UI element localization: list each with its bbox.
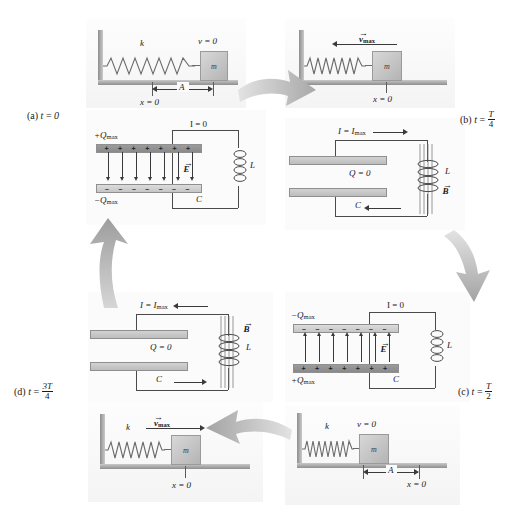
current-label-d: I = Imax <box>140 300 168 310</box>
amplitude-label-a: A <box>179 82 185 92</box>
origin-label-b: x = 0 <box>373 94 392 104</box>
flow-arrow-b-to-c <box>440 228 510 308</box>
capacitor-bottom-plate-c: +++++++ <box>293 364 399 373</box>
top-plate-charges-a: +++++++ <box>97 145 201 152</box>
flow-arrow-a-to-b <box>236 58 328 130</box>
wire-bottom-d <box>136 390 228 391</box>
inductor-coil-c <box>428 328 444 366</box>
origin-tick-c <box>419 465 420 479</box>
inductor-label-d: L <box>246 342 251 352</box>
time-fraction-c: T 2 <box>485 382 492 402</box>
wire-bottom-c <box>369 388 435 389</box>
bottom-charge-label-a: −Qmax <box>94 195 118 205</box>
current-arrow-line-bottom-d <box>174 382 204 383</box>
mass-label-a: m <box>211 62 217 71</box>
wire-bottom-a <box>172 208 238 209</box>
spring-coil-d <box>105 440 165 460</box>
flow-arrow-c-to-d <box>196 396 296 452</box>
capacitor-label-c: C <box>393 374 399 384</box>
capacitor-top-plate-b <box>289 156 387 165</box>
panel-label-b: (b) t = T 4 <box>460 110 495 130</box>
top-plate-charges-c: ––––––– <box>294 325 398 332</box>
capacitor-bottom-plate-b <box>289 188 387 197</box>
velocity-label-b: →vmax <box>359 28 368 38</box>
bfield-label-d: →B <box>244 318 253 328</box>
mass-block-b: m <box>372 51 402 81</box>
inductor-label-c: L <box>447 340 452 350</box>
charge-zero-label-b: Q = 0 <box>349 168 371 178</box>
current-arrowhead-bottom-d <box>202 379 207 385</box>
panel-c-spring: m k v = 0 A x = 0 <box>285 405 460 505</box>
current-arrow-line-top-b <box>373 132 405 133</box>
flow-arrow-d-to-a <box>78 218 140 310</box>
spring-constant-label-a: k <box>140 38 144 48</box>
panel-a-spring: m k v = 0 A x = 0 <box>86 18 246 108</box>
wire-top-d <box>136 314 228 315</box>
charge-zero-label-d: Q = 0 <box>150 342 172 352</box>
inductor-coil-d <box>215 332 245 372</box>
mass-block-c: m <box>359 434 389 464</box>
bottom-charge-label-c: +Qmax <box>291 375 315 385</box>
amplitude-arrowhead-right-a <box>208 86 213 92</box>
current-arrow-line-bottom-b <box>369 208 401 209</box>
velocity-arrow-line-d <box>146 428 202 429</box>
time-fraction-d: 3T 4 <box>42 382 54 402</box>
origin-tick-b <box>386 82 387 93</box>
current-arrowhead-top-d <box>173 303 178 309</box>
capacitor-label-a: C <box>196 194 202 204</box>
inductor-coil-a <box>231 148 247 186</box>
bottom-plate-charges-a: ––––––– <box>97 185 201 192</box>
wire-bottom-b <box>335 216 427 217</box>
spring-figure-c: m k v = 0 A x = 0 <box>285 405 460 505</box>
current-arrowhead-top-b <box>403 129 408 135</box>
wire-top-a <box>172 130 238 131</box>
spring-constant-label-d: k <box>126 422 130 432</box>
inductor-label-a: L <box>250 160 255 170</box>
spring-coil-a <box>103 56 195 76</box>
origin-label-a: x = 0 <box>140 97 159 107</box>
amplitude-arrowhead-left-a <box>152 86 157 92</box>
wire-right-lower-c <box>435 366 436 388</box>
capacitor-label-d: C <box>156 374 162 384</box>
bfield-label-b: →B <box>443 180 452 190</box>
circuit-figure-c: ––––––– +++++++ <box>285 292 470 402</box>
spring-constant-label-c: k <box>325 421 329 431</box>
spring-figure-a: m k v = 0 A x = 0 <box>86 18 246 108</box>
circuit-figure-b: I = Imax Q = 0 C L →B <box>285 118 465 230</box>
panel-label-a: (a) t = 0 <box>27 110 59 121</box>
current-arrowhead-bottom-b <box>364 205 369 211</box>
top-charge-label-a: +Qmax <box>94 130 118 140</box>
velocity-arrowhead-b <box>332 41 337 47</box>
panel-c-circuit: ––––––– +++++++ <box>285 292 470 402</box>
capacitor-bottom-plate-a: ––––––– <box>96 184 202 193</box>
capacitor-top-plate-d <box>90 330 188 339</box>
top-charge-label-c: −Qmax <box>291 310 315 320</box>
origin-label-c: x = 0 <box>407 479 426 489</box>
amplitude-arrowhead-left-c <box>363 469 368 475</box>
panel-label-c: (c) t = T 2 <box>458 382 492 402</box>
velocity-label-d: →vmax <box>154 412 163 422</box>
capacitor-bottom-plate-d <box>90 362 188 371</box>
mass-label-c: m <box>371 445 377 454</box>
current-arrow-line-top-d <box>178 306 208 307</box>
velocity-label-a: v = 0 <box>198 36 217 46</box>
wire-right-upper-a <box>238 130 239 148</box>
velocity-label-c: v = 0 <box>357 419 376 429</box>
mass-label-d: m <box>183 446 189 455</box>
efield-label-c: →E <box>381 338 390 348</box>
panel-b-circuit: I = Imax Q = 0 C L →B <box>285 118 465 230</box>
amplitude-tick-a <box>213 82 214 96</box>
origin-tick-d <box>185 466 186 478</box>
efield-label-a: →E <box>184 158 193 168</box>
velocity-arrow-line-b <box>337 44 397 45</box>
amplitude-label-c: A <box>388 465 394 475</box>
panel-label-d: (d) t = 3T 4 <box>14 382 53 402</box>
origin-label-d: x = 0 <box>172 480 191 490</box>
capacitor-label-b: C <box>355 200 361 210</box>
time-fraction-b: T 4 <box>488 110 495 130</box>
inductor-label-b: L <box>445 166 450 176</box>
wire-top-b <box>335 140 427 141</box>
spring-coil-c <box>302 439 354 459</box>
current-label-b: I = Imax <box>338 126 366 136</box>
current-label-a: I = 0 <box>190 119 207 129</box>
